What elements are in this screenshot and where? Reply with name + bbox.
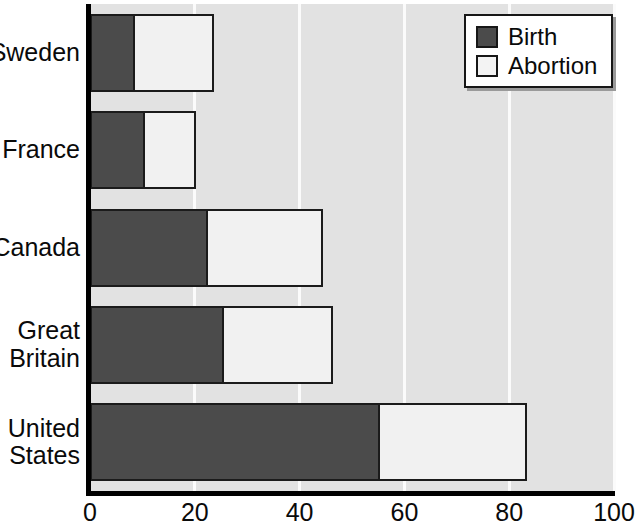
bar-segment-birth bbox=[90, 209, 207, 287]
legend-swatch-abortion bbox=[476, 55, 498, 77]
bar-group bbox=[90, 209, 323, 287]
legend-item-abortion: Abortion bbox=[476, 51, 597, 80]
category-label-line: Canada bbox=[0, 234, 80, 262]
category-label-france: France bbox=[0, 111, 80, 189]
category-label-line: France bbox=[2, 136, 80, 164]
bar-group bbox=[90, 403, 527, 481]
bar-segment-birth bbox=[90, 306, 223, 384]
category-label-line: Great bbox=[17, 317, 80, 345]
category-label-canada: Canada bbox=[0, 209, 80, 287]
bar-segment-abortion bbox=[223, 306, 333, 384]
x-tick-label: 20 bbox=[181, 498, 209, 527]
category-label-united-states: UnitedStates bbox=[0, 403, 80, 481]
x-tick-label: 40 bbox=[286, 498, 314, 527]
x-tick-label: 60 bbox=[390, 498, 418, 527]
chart-legend: Birth Abortion bbox=[464, 14, 613, 88]
bar-segment-abortion bbox=[144, 111, 196, 189]
bar-group bbox=[90, 14, 214, 92]
category-label-line: Britain bbox=[9, 345, 80, 373]
bar-segment-abortion bbox=[134, 14, 214, 92]
bar-group bbox=[90, 111, 196, 189]
legend-label-birth: Birth bbox=[508, 23, 557, 51]
category-label-sweden: Sweden bbox=[0, 14, 80, 92]
bar-group bbox=[90, 306, 333, 384]
category-label-line: Sweden bbox=[0, 39, 80, 67]
legend-label-abortion: Abortion bbox=[508, 52, 597, 80]
category-label-line: States bbox=[9, 442, 80, 470]
bar-segment-abortion bbox=[379, 403, 527, 481]
bar-segment-birth bbox=[90, 111, 144, 189]
x-axis-line bbox=[86, 491, 615, 496]
legend-item-birth: Birth bbox=[476, 22, 597, 51]
x-tick-label: 100 bbox=[593, 498, 635, 527]
bar-segment-birth bbox=[90, 14, 134, 92]
category-label-great-britain: GreatBritain bbox=[0, 306, 80, 384]
x-tick-label: 80 bbox=[495, 498, 523, 527]
x-tick-label: 0 bbox=[83, 498, 97, 527]
bar-segment-birth bbox=[90, 403, 379, 481]
y-axis-line bbox=[86, 4, 91, 495]
legend-swatch-birth bbox=[476, 26, 498, 48]
bar-segment-abortion bbox=[207, 209, 323, 287]
category-label-line: United bbox=[8, 415, 80, 443]
